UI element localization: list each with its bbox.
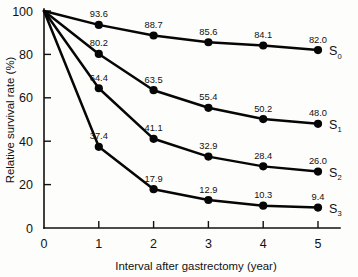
x-tick-label: 1 — [95, 237, 102, 251]
series-label-S2: S — [329, 166, 337, 180]
marker-S2-4 — [259, 162, 267, 170]
marker-S1-2 — [150, 86, 158, 94]
x-tick-label: 3 — [205, 237, 212, 251]
point-label-S3-4: 10.3 — [254, 190, 272, 200]
marker-S0-1 — [95, 21, 103, 29]
marker-S1-4 — [259, 115, 267, 123]
point-label-S1-2: 63.5 — [145, 75, 163, 85]
y-tick-label: 60 — [19, 91, 33, 105]
point-label-S2-5: 26.0 — [309, 156, 327, 166]
y-tick-label: 40 — [19, 135, 33, 149]
point-label-S2-4: 28.4 — [254, 151, 272, 161]
survival-rate-chart: 020406080100012345 93.688.785.684.182.08… — [0, 0, 358, 277]
point-label-S3-1: 37.4 — [90, 131, 108, 141]
series-label-sub-S3: 3 — [338, 209, 342, 218]
x-tick-label: 4 — [260, 237, 267, 251]
x-axis-title: Interval after gastrectomy (year) — [115, 260, 277, 272]
y-tick-label: 80 — [19, 48, 33, 62]
series-label-S0: S — [329, 44, 337, 58]
marker-S0-3 — [204, 38, 212, 46]
series-label-sub-S2: 2 — [338, 173, 342, 182]
marker-S3-2 — [150, 185, 158, 193]
x-tick-label: 5 — [315, 237, 322, 251]
marker-S2-2 — [150, 135, 158, 143]
series-lines — [44, 11, 318, 208]
marker-S3-1 — [95, 143, 103, 151]
point-label-S3-3: 12.9 — [199, 185, 217, 195]
point-label-S0-2: 88.7 — [145, 20, 163, 30]
marker-S0-5 — [314, 46, 322, 54]
point-label-S1-5: 48.0 — [309, 108, 327, 118]
tick-labels: 020406080100012345 — [12, 5, 321, 252]
point-label-S0-4: 84.1 — [254, 30, 272, 40]
marker-S3-5 — [314, 204, 322, 212]
point-label-S0-5: 82.0 — [309, 35, 327, 45]
marker-S3-4 — [259, 202, 267, 210]
marker-S2-1 — [95, 84, 103, 92]
point-label-S2-3: 32.9 — [199, 141, 217, 151]
marker-S2-3 — [204, 153, 212, 161]
series-label-sub-S1: 1 — [338, 125, 342, 134]
series-label-S3: S — [329, 202, 337, 216]
point-label-S2-2: 41.1 — [145, 123, 163, 133]
y-axis-title: Relative survival rate (%) — [4, 56, 16, 183]
series-label-sub-S0: 0 — [338, 52, 342, 61]
y-tick-label: 20 — [19, 178, 33, 192]
point-label-S3-5: 9.4 — [312, 192, 325, 202]
point-label-S1-3: 55.4 — [199, 92, 217, 102]
marker-S1-5 — [314, 120, 322, 128]
series-label-S1: S — [329, 118, 337, 132]
x-tick-label: 0 — [41, 237, 48, 251]
y-tick-label: 0 — [26, 222, 33, 236]
marker-S3-3 — [204, 196, 212, 204]
marker-S0-4 — [259, 41, 267, 49]
point-label-S3-2: 17.9 — [145, 174, 163, 184]
point-label-S1-4: 50.2 — [254, 104, 272, 114]
point-label-S0-3: 85.6 — [199, 27, 217, 37]
point-label-S2-1: 64.4 — [90, 73, 108, 83]
point-label-S0-1: 93.6 — [90, 9, 108, 19]
x-tick-label: 2 — [150, 237, 157, 251]
marker-S2-5 — [314, 167, 322, 175]
series-line-S3 — [44, 11, 318, 208]
marker-S1-3 — [204, 104, 212, 112]
marker-S1-1 — [95, 50, 103, 58]
point-label-S1-1: 80.2 — [90, 38, 108, 48]
series-end-labels: S0S1S2S3 — [329, 44, 342, 218]
series-line-S2 — [44, 11, 318, 172]
chart-canvas: 020406080100012345 93.688.785.684.182.08… — [0, 0, 358, 277]
y-tick-label: 100 — [12, 5, 33, 19]
marker-S0-2 — [150, 31, 158, 39]
